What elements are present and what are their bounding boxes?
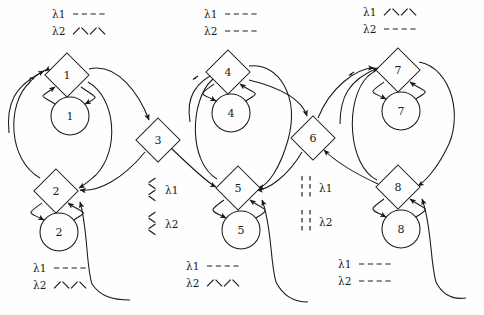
petri-net-svg: λ1λ2λ1λ2λ1λ2λ1λ2λ1λ2λ1λ2λ1λ2λ1λ2 1122344… <box>0 0 484 315</box>
circle-shape <box>222 211 260 249</box>
node-diamond-7[interactable]: 7 <box>376 48 420 92</box>
edge-arrow <box>80 152 145 190</box>
legend-lambda-label: λ2 <box>319 216 332 228</box>
circle-shape <box>382 210 420 248</box>
edge-arrow <box>257 152 302 190</box>
diamond-shape <box>45 53 89 97</box>
node-diamond-6[interactable]: 6 <box>291 116 335 160</box>
legend-lambda-label: λ2 <box>363 23 376 35</box>
legend-legend-bottom-left: λ1λ2 <box>33 262 88 291</box>
diagram-canvas: λ1λ2λ1λ2λ1λ2λ1λ2λ1λ2λ1λ2λ1λ2λ1λ2 1122344… <box>0 0 484 315</box>
edge-line <box>419 62 454 150</box>
legend-legend-center-left: λ1λ2 <box>149 178 179 235</box>
legend-lambda-label: λ1 <box>338 258 351 270</box>
edge-arrow <box>31 203 44 220</box>
edge-arrow <box>373 82 386 99</box>
node-diamond-8[interactable]: 8 <box>376 165 420 209</box>
edge-line <box>193 76 198 79</box>
edge-arrow <box>81 87 95 104</box>
node-circle-7[interactable]: 7 <box>382 92 420 130</box>
edge-line <box>92 284 130 300</box>
legend-legend-top-left: λ1λ2 <box>52 8 107 37</box>
edge-line <box>436 282 466 298</box>
diamond-shape <box>291 116 335 160</box>
legend-lambda-label: λ2 <box>33 279 46 291</box>
edge-arrow <box>43 87 55 104</box>
node-diamond-5[interactable]: 5 <box>216 166 260 210</box>
legend-lambda-label: λ1 <box>363 6 376 18</box>
legend-zigzag-line <box>149 212 156 235</box>
node-circle-4[interactable]: 4 <box>212 94 250 132</box>
legend-lambda-label: λ1 <box>52 8 65 20</box>
circle-shape <box>40 213 78 251</box>
legend-lambda-label: λ2 <box>52 25 65 37</box>
edge-arrow <box>249 80 307 116</box>
edge-arrow <box>213 200 226 218</box>
edge-arrow <box>340 68 378 124</box>
edge-arrow <box>418 150 446 186</box>
circle-shape <box>51 97 89 135</box>
diamond-shape <box>376 165 420 209</box>
node-circle-5[interactable]: 5 <box>222 211 260 249</box>
node-circle-8[interactable]: 8 <box>382 210 420 248</box>
edge-arrow <box>258 140 288 188</box>
nodes-layer: 11223445567788 <box>34 48 420 251</box>
legend-zigzag-line <box>384 9 416 16</box>
edge-line <box>88 82 112 175</box>
diamond-shape <box>206 50 250 94</box>
legend-lambda-label: λ2 <box>204 25 217 37</box>
node-diamond-1[interactable]: 1 <box>45 53 89 97</box>
edge-arrow <box>373 199 386 217</box>
legend-zigzag-line <box>149 178 156 201</box>
edge-arrow <box>30 70 46 82</box>
diamond-shape <box>216 166 260 210</box>
node-diamond-4[interactable]: 4 <box>206 50 250 94</box>
diamond-shape <box>34 169 78 213</box>
edge-arrow <box>324 150 378 184</box>
circle-shape <box>382 92 420 130</box>
node-circle-2[interactable]: 2 <box>40 213 78 251</box>
legend-zigzag-line <box>73 28 105 35</box>
edge-arrow <box>203 84 216 101</box>
legend-lambda-label: λ1 <box>165 184 178 196</box>
legend-zigzag-line <box>54 282 86 289</box>
edge-line <box>249 66 291 140</box>
circle-shape <box>212 94 250 132</box>
legend-lambda-label: λ2 <box>165 218 178 230</box>
edge-arrow <box>171 148 216 187</box>
legend-lambda-label: λ1 <box>33 262 46 274</box>
legends-layer: λ1λ2λ1λ2λ1λ2λ1λ2λ1λ2λ1λ2λ1λ2λ1λ2 <box>33 6 418 291</box>
node-diamond-2[interactable]: 2 <box>34 169 78 213</box>
diamond-shape <box>376 48 420 92</box>
legend-lambda-label: λ1 <box>204 8 217 20</box>
edge-line <box>195 80 217 179</box>
legend-lambda-label: λ2 <box>186 277 199 289</box>
legend-legend-center-right: λ1λ2 <box>302 176 332 234</box>
legend-zigzag-line <box>207 280 239 287</box>
legend-legend-top-middle: λ1λ2 <box>204 8 259 37</box>
legend-lambda-label: λ1 <box>319 182 332 194</box>
edge-arrow <box>79 175 96 188</box>
legend-lambda-label: λ1 <box>186 260 199 272</box>
edge-arrow <box>89 68 149 120</box>
edge-line <box>14 82 40 178</box>
legend-legend-bottom-right: λ1λ2 <box>338 258 393 287</box>
legend-lambda-label: λ2 <box>338 275 351 287</box>
edge-line <box>276 282 308 302</box>
legend-legend-bottom-middle: λ1λ2 <box>186 260 241 289</box>
node-circle-1[interactable]: 1 <box>51 97 89 135</box>
legend-legend-top-right: λ1λ2 <box>363 6 418 35</box>
